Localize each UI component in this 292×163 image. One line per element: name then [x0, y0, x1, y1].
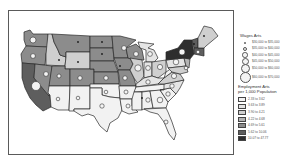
wage-circle [124, 90, 128, 94]
color-swatch-icon [238, 104, 246, 109]
wage-circle [179, 49, 185, 55]
wages-legend-row: $60,000 to $70,000 [238, 72, 292, 82]
state-washington [24, 30, 48, 47]
state-wyoming [65, 52, 90, 69]
wage-circle [173, 59, 179, 65]
wage-circle [56, 97, 60, 101]
color-swatch-icon [238, 110, 246, 115]
wage-circle [76, 96, 80, 100]
state-maine [198, 26, 218, 48]
wage-circle [135, 65, 141, 71]
wage-size-circle-icon [240, 72, 251, 83]
color-swatch-icon [238, 130, 246, 135]
map-legend: Wages Arts $30,000 to $35,000 $35,000 to… [238, 34, 292, 142]
wage-circle [32, 82, 41, 91]
wage-circle [170, 84, 174, 88]
wage-circle [157, 97, 163, 103]
state-mississippi [132, 92, 142, 110]
employment-legend-row: 2.33 to 3.62 [238, 96, 292, 103]
color-swatch-icon [238, 117, 246, 122]
state-florida [144, 108, 176, 140]
wage-circle [146, 98, 150, 102]
wages-legend-title: Wages Arts [240, 34, 292, 38]
wage-circle [164, 120, 168, 124]
wage-circle [146, 80, 150, 84]
wage-circle [171, 73, 176, 78]
wage-circle [126, 104, 130, 108]
wage-circle [104, 76, 108, 80]
employment-legend-row: 4.69 to 5.61 [238, 122, 292, 129]
wage-circle [122, 46, 127, 51]
wage-circle [57, 74, 61, 78]
employment-legend-row: 10.07 to 47.77 [238, 136, 292, 143]
employment-legend-title: Employment Arts per 1,000 Population [238, 85, 292, 95]
us-choropleth-map [8, 10, 234, 155]
state-nebraska [90, 61, 118, 72]
wage-circle [148, 52, 153, 57]
wage-circle [196, 50, 200, 54]
wage-circle [100, 104, 104, 108]
wage-size-circle-icon [243, 47, 247, 51]
wage-circle [30, 37, 36, 43]
wage-circle [134, 52, 139, 57]
wage-circle [157, 64, 162, 69]
wage-circle [184, 66, 188, 70]
employment-legend-row: 5.62 to 10.06 [238, 129, 292, 136]
wage-circle [78, 76, 82, 80]
color-swatch-icon [238, 136, 246, 141]
wage-size-circle-icon [244, 42, 246, 44]
employment-legend-row: 3.90 to 4.21 [238, 109, 292, 116]
wage-circle [44, 72, 49, 77]
wage-circle [31, 54, 36, 59]
color-swatch-icon [238, 123, 246, 128]
wage-circle [123, 76, 127, 80]
wage-circle [166, 92, 170, 96]
wage-circle [104, 90, 108, 94]
employment-legend-row: 4.22 to 4.68 [238, 116, 292, 123]
wage-circle [146, 66, 151, 71]
employment-legend-row: 3.63 to 3.89 [238, 103, 292, 110]
color-swatch-icon [238, 97, 246, 102]
